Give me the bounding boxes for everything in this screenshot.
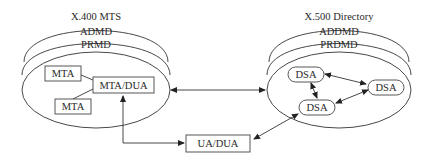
ua-dua-node[interactable]: UA/DUA <box>186 135 250 152</box>
uadua-dsa-link <box>254 114 298 139</box>
svg-text:UA/DUA: UA/DUA <box>198 138 239 149</box>
mta-node-1[interactable]: MTA <box>45 66 81 81</box>
addmd-label: ADDMD <box>319 26 359 37</box>
dsa-node-1[interactable]: DSA <box>288 67 324 82</box>
svg-text:MTA: MTA <box>62 101 85 112</box>
svg-text:MTA: MTA <box>52 68 75 79</box>
svg-text:DSA: DSA <box>375 82 396 93</box>
svg-text:MTA/DUA: MTA/DUA <box>99 80 148 91</box>
mta-dua-node[interactable]: MTA/DUA <box>93 77 154 93</box>
prmd-label: PRMD <box>81 39 111 50</box>
x400-mts-group: X.400 MTS ADMD PRMD MTA MTA MTA/DUA <box>22 11 170 128</box>
dsa2-dsa3-link <box>336 90 368 103</box>
svg-text:DSA: DSA <box>295 69 316 80</box>
dsa1-dsa2-link <box>311 83 317 98</box>
svg-text:DSA: DSA <box>306 102 327 113</box>
admd-label: ADMD <box>80 26 113 37</box>
x500-directory-group: X.500 Directory ADDMD PRDMD DSA DSA DSA <box>267 11 411 128</box>
mta-node-2[interactable]: MTA <box>55 99 91 114</box>
mta1-link <box>81 75 93 80</box>
dsa-node-2[interactable]: DSA <box>299 100 335 115</box>
dsa-node-3[interactable]: DSA <box>368 80 404 95</box>
x400-x500-architecture-diagram: X.400 MTS ADMD PRMD MTA MTA MTA/DUA X.50… <box>0 0 433 166</box>
mts-title: X.400 MTS <box>71 11 121 22</box>
directory-title: X.500 Directory <box>305 11 375 22</box>
prdmd-label: PRDMD <box>320 39 358 50</box>
mta2-link <box>73 89 93 99</box>
dsa1-dsa3-link <box>325 74 366 84</box>
